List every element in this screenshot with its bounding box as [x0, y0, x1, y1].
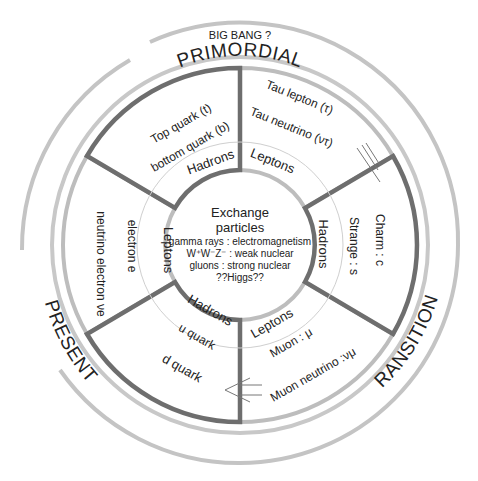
hub-line-weak: W⁺W⁻Z⁻ : weak nuclear	[186, 248, 294, 259]
category-hadrons-gen2: Hadrons	[316, 219, 331, 269]
item-neutrino-electron: neutrino electron νe	[94, 211, 108, 317]
hub-exchange-particles: Exchange particles gamma rays : electrom…	[169, 205, 311, 283]
hub-line-strong: gluons : strong nuclear	[189, 260, 291, 271]
item-strange: Strange : s	[347, 217, 361, 275]
hub-line-higgs: ??Higgs??	[216, 272, 264, 283]
hub-title-line1: Exchange	[211, 205, 269, 220]
hub-line-gamma: gamma rays : electromagnetism	[169, 236, 311, 247]
hub-title-line2: particles	[216, 220, 265, 235]
item-charm: Charm : c	[373, 214, 387, 266]
era-subtitle-big-bang: BIG BANG ?	[209, 29, 271, 41]
item-electron: electron e	[125, 220, 139, 273]
category-leptons-gen1: Leptons	[161, 227, 176, 274]
particle-generations-diagram: PRIMORDIAL BIG BANG ? TRANSITION ? PRESE…	[0, 0, 478, 481]
